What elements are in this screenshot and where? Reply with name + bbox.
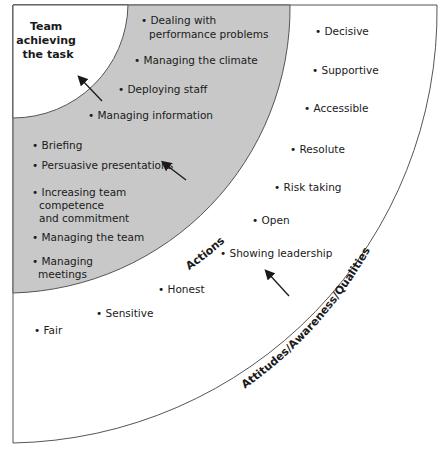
- quality-item: • Showing leadership: [220, 247, 333, 259]
- quality-item: • Accessible: [304, 102, 368, 114]
- action-item: • Managing the climate: [134, 54, 258, 66]
- action-item: • Managing meetings: [32, 255, 96, 280]
- quality-item: • Open: [252, 214, 290, 226]
- action-item: • Deploying staff: [118, 83, 208, 95]
- action-item: • Briefing: [32, 139, 82, 151]
- leadership-diagram: Team achieving the task Actions Attitude…: [0, 0, 444, 457]
- quality-item: • Decisive: [315, 25, 369, 37]
- quality-item: • Sensitive: [96, 307, 153, 319]
- quality-item: • Resolute: [290, 143, 345, 155]
- action-item: • Managing information: [88, 109, 213, 121]
- quality-item: • Honest: [158, 283, 205, 295]
- quality-item: • Supportive: [312, 64, 379, 76]
- quality-item: • Risk taking: [274, 181, 342, 193]
- quality-item: • Fair: [34, 324, 63, 336]
- action-item: • Managing the team: [32, 231, 144, 243]
- action-item: • Persuasive presentations: [32, 159, 173, 171]
